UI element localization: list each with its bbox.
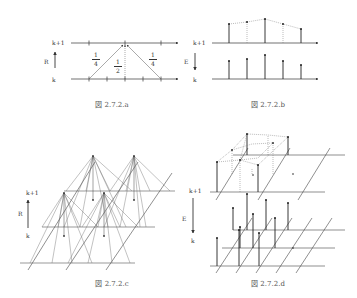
- figure-caption: 図 2.7.2.c: [95, 278, 128, 288]
- figure-d: k+1 k E 図 2.7.2.d: [180, 130, 357, 298]
- restriction-2d-diagram: [0, 140, 180, 298]
- level-label-top: k+1: [26, 189, 38, 196]
- operator-label: E: [184, 58, 188, 65]
- figure-caption: 図 2.7.2.a: [95, 99, 128, 109]
- operator-label: R: [18, 210, 23, 217]
- figure-b: k+1 k E 図 2.7.2.b: [180, 0, 357, 120]
- level-label-bottom: k: [26, 232, 30, 239]
- level-label-bottom: k: [52, 76, 56, 83]
- figure-caption: 図 2.7.2.d: [251, 278, 285, 288]
- weight-center: 12: [114, 59, 122, 74]
- prolongation-2d-diagram: [180, 130, 357, 298]
- figure-c: k+1 k R 図 2.7.2.c: [0, 140, 180, 298]
- weight-right: 14: [149, 52, 157, 67]
- level-label-bottom: k: [191, 237, 195, 244]
- figure-caption: 図 2.7.2.b: [251, 99, 285, 109]
- level-label-top: k+1: [193, 39, 205, 46]
- weight-left: 14: [92, 52, 100, 67]
- level-label-top: k+1: [52, 39, 64, 46]
- operator-label: E: [182, 215, 186, 222]
- level-label-bottom: k: [193, 76, 197, 83]
- operator-label: R: [44, 58, 49, 65]
- figure-a: k+1 k R 14 12 14 図 2.7.2.a: [0, 0, 180, 120]
- level-label-top: k+1: [189, 187, 201, 194]
